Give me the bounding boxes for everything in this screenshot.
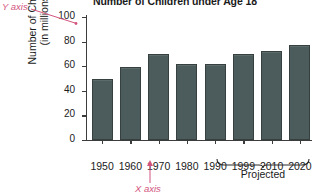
- projected-label: Projected: [216, 168, 310, 180]
- bar-1970: [148, 54, 169, 140]
- bar-1990: [205, 64, 226, 140]
- x-axis-label-1960: 1960: [119, 160, 142, 172]
- plot-area: 020406080100 195019601970198019901999201…: [86, 17, 312, 140]
- y-tick-label: 60: [47, 59, 75, 70]
- bar-2020: [289, 45, 310, 140]
- bar-1980: [176, 64, 197, 140]
- x-tick-1970: [159, 140, 160, 144]
- x-tick-1990: [215, 140, 216, 144]
- y-axis-callout-label: Y axis: [2, 1, 28, 12]
- x-axis-label-1970: 1970: [147, 160, 170, 172]
- y-tick-100: 100: [82, 17, 87, 18]
- y-tick-label: 80: [47, 35, 75, 46]
- projected-brace-icon: [216, 158, 310, 168]
- bar-1960: [120, 67, 141, 140]
- x-tick-1950: [102, 140, 103, 144]
- x-axis-label-1980: 1980: [175, 160, 198, 172]
- y-tick-label: 20: [47, 108, 75, 119]
- y-tick-40: 40: [82, 91, 87, 92]
- bar-1950: [92, 79, 113, 141]
- y-tick-label: 40: [47, 84, 75, 95]
- chart-title: Number of Children under Age 18: [60, 0, 290, 7]
- y-tick-0: 0: [82, 140, 87, 141]
- x-tick-1980: [187, 140, 188, 144]
- bar-1999: [233, 54, 254, 140]
- x-tick-1999: [243, 140, 244, 144]
- x-tick-1960: [130, 140, 131, 144]
- x-axis-line: [86, 140, 312, 141]
- y-tick-label: 100: [47, 10, 75, 21]
- y-tick-60: 60: [82, 66, 87, 67]
- x-tick-2010: [272, 140, 273, 144]
- x-axis-callout-label: X axis: [135, 183, 161, 194]
- y-tick-20: 20: [82, 115, 87, 116]
- chart-screenshot: Number of Children under Age 18 Number o…: [0, 0, 320, 195]
- x-tick-2020: [300, 140, 301, 144]
- y-axis-line: [86, 15, 87, 140]
- y-tick-80: 80: [82, 42, 87, 43]
- bar-2010: [261, 51, 282, 140]
- y-tick-label: 0: [47, 133, 75, 144]
- x-axis-label-1950: 1950: [90, 160, 113, 172]
